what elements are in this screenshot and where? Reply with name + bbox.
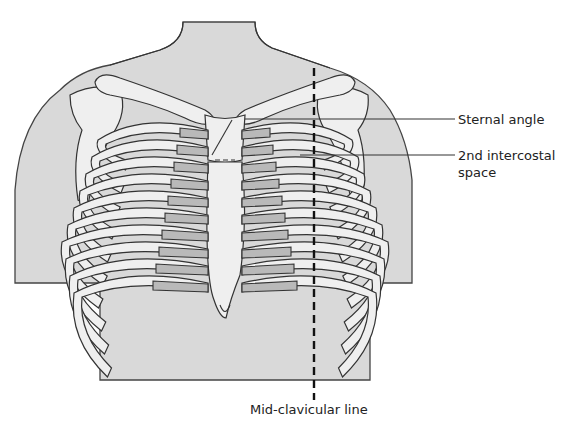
chest-anatomy-diagram: Sternal angle 2nd intercostal space Mid-…: [0, 0, 586, 432]
label-sternal-angle: Sternal angle: [458, 112, 544, 127]
manubrium: [205, 115, 245, 163]
label-mid-clavicular-line: Mid-clavicular line: [250, 402, 368, 417]
label-space: space: [458, 165, 496, 180]
label-2nd-intercostal: 2nd intercostal: [458, 148, 555, 163]
